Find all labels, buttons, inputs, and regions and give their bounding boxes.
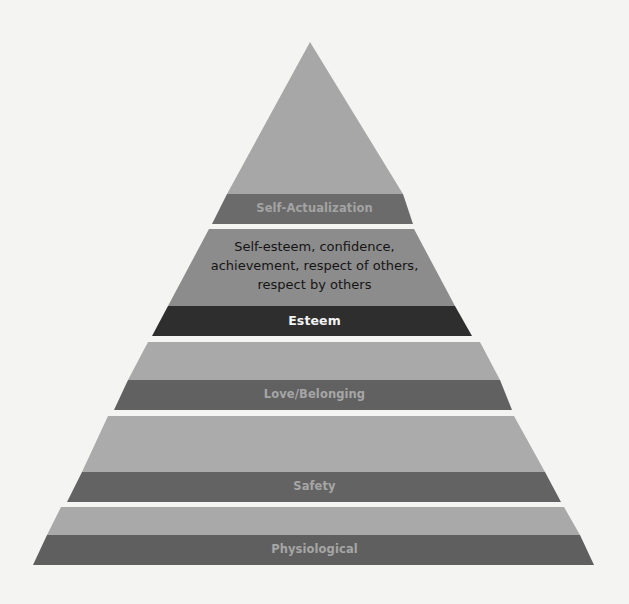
level-self-actualization (212, 42, 413, 224)
physiological-fill (47, 507, 580, 535)
self-actualization-fill (227, 42, 403, 194)
level-label-physiological: Physiological (0, 542, 629, 556)
love-belonging-fill (128, 342, 500, 380)
esteem-description-line-1: Self-esteem, confidence, (0, 237, 629, 256)
safety-fill (82, 416, 545, 472)
esteem-description-line-2: achievement, respect of others, (0, 256, 629, 275)
esteem-description: Self-esteem, confidence, achievement, re… (0, 237, 629, 294)
level-label-esteem: Esteem (0, 313, 629, 328)
level-label-safety: Safety (0, 479, 629, 493)
level-physiological (33, 507, 594, 565)
esteem-description-line-3: respect by others (0, 275, 629, 294)
maslow-pyramid (0, 0, 629, 604)
level-label-love-belonging: Love/Belonging (0, 387, 629, 401)
level-label-self-actualization: Self-Actualization (0, 201, 629, 215)
